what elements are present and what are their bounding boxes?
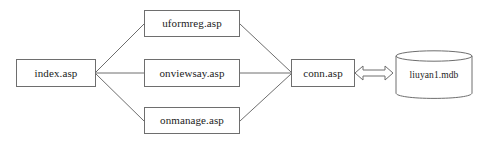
bidirectional-arrow-icon xyxy=(354,63,394,83)
node-onviewsay-asp-label: onviewsay.asp xyxy=(159,68,224,79)
node-uformreg-asp-label: uformreg.asp xyxy=(162,18,222,29)
node-uformreg-asp[interactable]: uformreg.asp xyxy=(144,10,240,37)
edge-index-to-uformreg xyxy=(96,24,144,72)
diagram-canvas: index.asp uformreg.asp onviewsay.asp onm… xyxy=(0,0,482,144)
node-index-asp-label: index.asp xyxy=(35,68,78,79)
node-index-asp[interactable]: index.asp xyxy=(16,59,96,87)
edge-index-to-onmanage xyxy=(96,74,144,121)
edge-onmanage-to-conn xyxy=(240,74,291,121)
node-onviewsay-asp[interactable]: onviewsay.asp xyxy=(144,59,240,87)
node-conn-asp-label: conn.asp xyxy=(303,68,343,79)
node-database-label: liuyan1.mdb xyxy=(410,70,459,80)
node-onmanage-asp[interactable]: onmanage.asp xyxy=(144,107,240,134)
node-conn-asp[interactable]: conn.asp xyxy=(291,59,355,87)
edge-uformreg-to-conn xyxy=(240,24,291,72)
node-database-label-wrap: liuyan1.mdb xyxy=(395,50,473,99)
node-onmanage-asp-label: onmanage.asp xyxy=(160,115,224,126)
node-database-cylinder[interactable]: liuyan1.mdb xyxy=(395,50,473,99)
